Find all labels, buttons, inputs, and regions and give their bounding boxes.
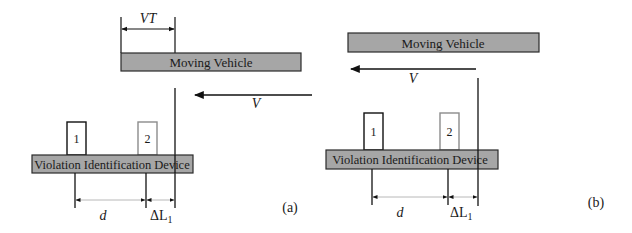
svg-text:1: 1 bbox=[74, 132, 80, 146]
velocity-arrow-b: V bbox=[351, 69, 476, 86]
sensor-2-a: 2 bbox=[138, 122, 157, 155]
device-label-a: Violation Identification Device bbox=[34, 158, 190, 172]
d-label-b: d bbox=[397, 205, 405, 220]
moving-vehicle-b: Moving Vehicle bbox=[348, 33, 539, 52]
svg-text:1: 1 bbox=[371, 125, 377, 139]
caption-a: (a) bbox=[282, 200, 298, 216]
velocity-label-b: V bbox=[409, 71, 419, 86]
device-label-b: Violation Identification Device bbox=[332, 153, 488, 167]
velocity-label-a: V bbox=[252, 96, 262, 111]
sensor-1-b: 1 bbox=[364, 113, 383, 150]
vt-dimension: VT bbox=[121, 11, 175, 53]
vehicle-label-b: Moving Vehicle bbox=[401, 36, 484, 51]
svg-text:2: 2 bbox=[447, 125, 453, 139]
violation-device-a: Violation Identification Device bbox=[32, 155, 193, 173]
moving-vehicle-a: Moving Vehicle bbox=[121, 53, 301, 71]
vehicle-label-a: Moving Vehicle bbox=[169, 55, 252, 70]
diagram-canvas: VT Moving Vehicle V 1 2 Violation Identi… bbox=[0, 0, 632, 233]
distance-dimensions-b: d ΔL1 bbox=[372, 169, 477, 222]
distance-dimensions-a: d ΔL1 bbox=[75, 173, 174, 225]
sensor-1-a: 1 bbox=[67, 122, 86, 155]
panel-a: VT Moving Vehicle V 1 2 Violation Identi… bbox=[32, 11, 312, 225]
caption-b: (b) bbox=[588, 195, 605, 211]
panel-b: Moving Vehicle V 1 2 Violation Identific… bbox=[326, 33, 604, 222]
velocity-arrow-a: V bbox=[195, 95, 312, 111]
violation-device-b: Violation Identification Device bbox=[326, 150, 498, 169]
sensor-2-b: 2 bbox=[440, 113, 459, 150]
svg-text:2: 2 bbox=[145, 132, 151, 146]
d-label-a: d bbox=[100, 208, 108, 223]
delta-l1-label-b: ΔL1 bbox=[450, 205, 473, 222]
vt-label: VT bbox=[140, 11, 158, 26]
delta-l1-label-a: ΔL1 bbox=[150, 208, 173, 225]
